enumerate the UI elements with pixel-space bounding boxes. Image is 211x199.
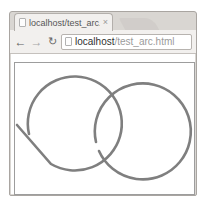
browser-tab[interactable]: localhost/test_arc.htm × (14, 13, 113, 31)
forward-button[interactable]: → (30, 36, 43, 48)
new-tab-button[interactable] (119, 18, 159, 30)
address-bar[interactable]: localhost/test_arc.html (61, 34, 192, 50)
screenshot-root: localhost/test_arc.htm × ← → ↻ localhost… (0, 0, 211, 199)
tab-strip: localhost/test_arc.htm × (10, 12, 196, 30)
page-favicon-icon (19, 18, 26, 27)
address-text[interactable]: localhost/test_arc.html (75, 36, 175, 47)
right-open-circle-arc (95, 83, 191, 179)
address-host: localhost (75, 36, 114, 47)
browser-window: localhost/test_arc.htm × ← → ↻ localhost… (9, 11, 197, 196)
left-arc-with-tail (17, 76, 122, 170)
arc-drawing (15, 63, 194, 194)
page-icon (65, 37, 72, 46)
tab-title: localhost/test_arc.htm (29, 18, 100, 28)
back-button[interactable]: ← (14, 36, 27, 48)
page-content (11, 54, 195, 194)
arc-canvas (14, 62, 195, 195)
tab-close-icon[interactable]: × (103, 18, 108, 27)
address-path: /test_arc.html (114, 36, 174, 47)
navigation-toolbar: ← → ↻ localhost/test_arc.html (10, 30, 196, 54)
reload-button[interactable]: ↻ (46, 36, 58, 47)
